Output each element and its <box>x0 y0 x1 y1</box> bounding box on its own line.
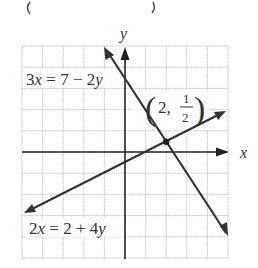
y-axis-arrow-icon <box>121 47 130 60</box>
open-paren: ( <box>145 90 156 128</box>
coordinate-graph: x y 3x = 7 − 2y 2x = 2 + 4y ( 2, 1 2 ) <box>0 0 258 268</box>
fraction-numerator: 1 <box>183 91 190 106</box>
intersection-x: 2, <box>158 98 171 117</box>
arrowhead-icon <box>214 111 226 120</box>
intersection-point <box>163 139 169 145</box>
y-axis-label: y <box>118 25 128 43</box>
x-axis-label: x <box>239 144 247 161</box>
fraction-denominator: 2 <box>182 110 189 125</box>
close-paren: ) <box>194 90 205 128</box>
equation-label-2: 2x = 2 + 4y <box>29 219 106 238</box>
x-axis-arrow-icon <box>216 148 229 157</box>
arrowhead-icon <box>24 204 36 213</box>
top-partial-text <box>28 2 155 14</box>
equation-label-1: 3x = 7 − 2y <box>26 70 103 89</box>
